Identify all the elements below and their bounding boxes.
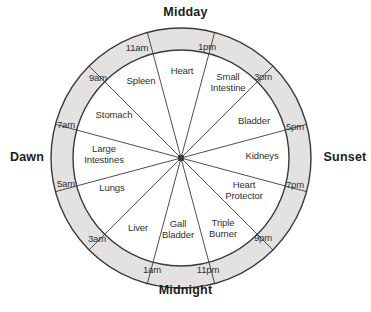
organ-label-liver: Liver bbox=[128, 223, 148, 234]
organ-label-heart-protector: Heart Protector bbox=[225, 180, 263, 201]
organ-label-spleen: Spleen bbox=[127, 76, 156, 87]
cardinal-label-sunset: Sunset bbox=[320, 150, 370, 164]
hour-label-1am: 1am bbox=[143, 264, 161, 275]
organ-label-bladder: Bladder bbox=[238, 116, 270, 127]
clock-wheel-graphic bbox=[0, 0, 371, 312]
organ-label-lungs: Lungs bbox=[99, 183, 124, 194]
organ-label-small-intestine: Small Intestine bbox=[210, 72, 245, 93]
segment-divider bbox=[153, 158, 181, 262]
cardinal-label-dawn: Dawn bbox=[4, 150, 50, 164]
hour-label-5am: 5am bbox=[57, 178, 75, 189]
cardinal-label-midnight: Midnight bbox=[0, 283, 371, 297]
hour-label-9am: 9am bbox=[89, 72, 107, 83]
hour-label-3am: 3am bbox=[88, 233, 106, 244]
organ-label-triple-burner: Triple Burner bbox=[209, 218, 237, 239]
hour-label-1pm: 1pm bbox=[198, 41, 216, 52]
cardinal-label-midday: Midday bbox=[0, 5, 371, 19]
hour-label-11am: 11am bbox=[126, 42, 149, 53]
hour-label-9pm: 9pm bbox=[254, 232, 272, 243]
hour-label-7am: 7am bbox=[57, 119, 75, 130]
organ-clock-diagram: Midday Midnight Dawn Sunset 11am1pm3pm5p… bbox=[0, 0, 371, 312]
hour-label-5pm: 5pm bbox=[286, 121, 304, 132]
hour-label-11pm: 11pm bbox=[197, 264, 220, 275]
organ-label-large-intestines: Large Intestines bbox=[84, 144, 124, 165]
organ-label-gall-bladder: Gall Bladder bbox=[162, 219, 194, 240]
organ-label-heart: Heart bbox=[171, 66, 194, 77]
organ-label-stomach: Stomach bbox=[96, 110, 133, 121]
center-hub bbox=[178, 155, 184, 161]
hour-label-7pm: 7pm bbox=[286, 179, 304, 190]
segment-divider bbox=[181, 158, 209, 262]
organ-label-kidneys: Kidneys bbox=[245, 151, 278, 162]
hour-label-3pm: 3pm bbox=[254, 71, 272, 82]
